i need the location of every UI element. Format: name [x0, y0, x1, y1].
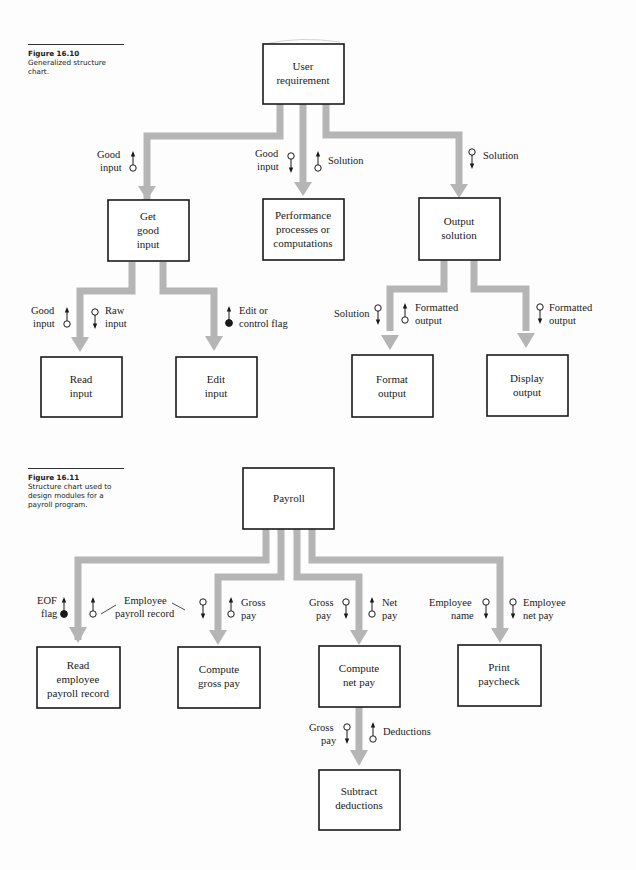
svg-text:pay: pay [241, 610, 257, 621]
svg-text:User: User [293, 60, 314, 72]
svg-text:Deductions: Deductions [383, 726, 431, 737]
svg-text:input: input [137, 238, 160, 250]
data-couple-down-icon [343, 599, 349, 619]
flow-gross-pay-down: Gross pay [309, 597, 349, 621]
module-format-output: Format output [352, 355, 433, 417]
svg-text:good: good [137, 224, 160, 236]
svg-text:Gross: Gross [309, 597, 334, 608]
module-compute-gross-pay: Compute gross pay [178, 647, 260, 708]
flow-deductions: Deductions [370, 722, 431, 742]
module-print-paycheck: Print paycheck [458, 645, 541, 706]
data-couple-up-icon [369, 597, 375, 617]
svg-text:Employee: Employee [124, 595, 167, 606]
svg-text:Display: Display [510, 372, 545, 384]
svg-text:input: input [257, 161, 279, 172]
flow-subtract-gross-pay: Gross pay [309, 722, 350, 746]
svg-text:Solution: Solution [483, 150, 519, 161]
svg-text:input: input [70, 387, 93, 399]
svg-text:Subtract: Subtract [341, 785, 378, 797]
svg-text:Good: Good [255, 148, 279, 159]
svg-text:pay: pay [316, 610, 332, 621]
svg-text:paycheck: paycheck [478, 675, 520, 687]
flow-raw-input: Raw input [92, 305, 127, 329]
svg-text:Compute: Compute [339, 662, 379, 674]
flow-employee-name: Employee name [429, 597, 489, 621]
data-couple-down-icon [537, 304, 543, 324]
connector-payroll-to-read-record [69, 529, 266, 643]
module-get-good-input: Get good input [108, 200, 189, 261]
svg-text:output: output [513, 386, 541, 398]
module-output-solution: Output solution [419, 198, 500, 260]
svg-text:Gross: Gross [309, 722, 334, 733]
svg-text:Edit: Edit [207, 373, 225, 385]
flow-eof-flag: EOF flag [37, 595, 67, 619]
data-couple-down-icon [344, 724, 350, 744]
flow-edit-control-flag: Edit or control flag [226, 305, 289, 329]
flow-solution-up: Solution [315, 151, 365, 171]
data-couple-down-icon [200, 599, 206, 619]
svg-text:solution: solution [441, 229, 477, 241]
flow-formatted-output-down: Formatted output [537, 302, 593, 326]
svg-text:Payroll: Payroll [273, 492, 305, 504]
svg-text:Net: Net [382, 597, 397, 608]
figure-16-10: User requirement Get good input Performa… [31, 39, 593, 417]
svg-text:processes or: processes or [276, 223, 330, 235]
svg-text:Compute: Compute [199, 663, 239, 675]
svg-text:input: input [205, 387, 228, 399]
data-couple-up-icon [370, 722, 376, 742]
data-couple-down-icon [469, 149, 475, 169]
svg-text:gross pay: gross pay [198, 677, 240, 689]
svg-text:name: name [451, 610, 474, 621]
module-read-input: Read input [41, 357, 122, 417]
structure-charts: User requirement Get good input Performa… [0, 0, 636, 870]
connector-get-to-edit [163, 262, 223, 351]
svg-text:output: output [378, 387, 406, 399]
data-couple-up-icon [402, 303, 408, 323]
module-performance-processes: Performance processes or computations [263, 199, 344, 260]
connector-root-to-perform [294, 104, 312, 196]
connector-root-to-output [326, 104, 468, 198]
data-couple-up-icon [64, 307, 70, 327]
svg-text:Solution: Solution [334, 308, 370, 319]
flow-good-input-up: Good input [97, 149, 136, 173]
svg-text:Good: Good [31, 305, 55, 316]
svg-text:output: output [415, 315, 442, 326]
connector-payroll-to-print [312, 529, 509, 643]
connector-output-to-display [474, 260, 535, 348]
svg-text:pay: pay [321, 735, 337, 746]
svg-text:input: input [105, 318, 127, 329]
data-couple-down-icon [483, 599, 489, 619]
svg-text:output: output [549, 315, 576, 326]
svg-text:input: input [100, 162, 122, 173]
svg-text:Print: Print [488, 661, 509, 673]
flow-format-solution: Solution [334, 305, 381, 325]
data-couple-down-icon [288, 153, 294, 173]
flow-good-input-down: Good input [255, 148, 294, 173]
svg-text:net pay: net pay [523, 610, 554, 621]
svg-text:Get: Get [140, 210, 156, 222]
svg-text:Good: Good [97, 149, 121, 160]
svg-text:flag: flag [41, 608, 58, 619]
svg-text:Format: Format [376, 373, 408, 385]
data-couple-down-icon [92, 309, 98, 329]
module-payroll: Payroll [243, 468, 334, 529]
flow-read-good-input: Good input [31, 305, 70, 329]
module-edit-input: Edit input [176, 357, 257, 417]
flow-employee-payroll-record: Employee payroll record [90, 595, 206, 619]
svg-text:Read: Read [67, 659, 90, 671]
svg-text:Performance: Performance [275, 209, 331, 221]
svg-text:Read: Read [70, 373, 93, 385]
control-flag-up-icon [226, 306, 233, 326]
svg-text:computations: computations [273, 237, 332, 249]
svg-text:requirement: requirement [276, 74, 329, 86]
module-compute-net-pay: Compute net pay [319, 646, 400, 707]
svg-text:Formatted: Formatted [415, 302, 459, 313]
svg-text:pay: pay [382, 610, 398, 621]
data-couple-down-icon [510, 599, 516, 619]
figure-16-11: Payroll Read employee payroll record Com… [37, 468, 566, 830]
connector-payroll-to-gross-pay [209, 529, 281, 645]
svg-text:employee: employee [57, 673, 100, 685]
data-couple-up-icon [315, 151, 321, 171]
flow-gross-pay-up: Gross pay [228, 597, 266, 621]
svg-text:Employee: Employee [523, 597, 566, 608]
